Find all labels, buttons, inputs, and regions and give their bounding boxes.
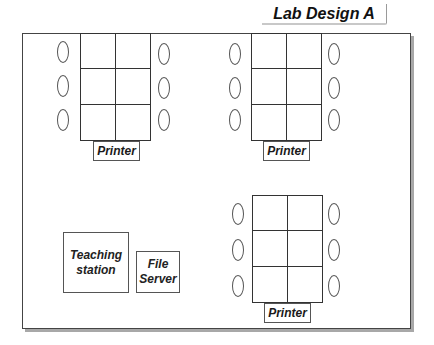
- desk-cluster: [80, 33, 151, 141]
- chair-icon: [232, 239, 244, 261]
- chair-icon: [158, 77, 170, 99]
- desk-cell: [253, 267, 288, 302]
- diagram-title: Lab Design A: [262, 4, 386, 23]
- desk-cell: [252, 34, 287, 69]
- desk-cell: [288, 231, 323, 266]
- chair-icon: [57, 75, 69, 97]
- desk-cell: [116, 105, 151, 140]
- file-server-label-line2: Server: [139, 272, 176, 287]
- desk-cell: [116, 69, 151, 104]
- chair-icon: [328, 43, 340, 65]
- desk-cluster: [252, 195, 323, 303]
- chair-icon: [229, 109, 241, 131]
- desk-cell: [252, 69, 287, 104]
- desk-cell: [253, 231, 288, 266]
- printer: Printer: [264, 303, 311, 323]
- desk-cell: [252, 105, 287, 140]
- chair-icon: [158, 43, 170, 65]
- desk-cell: [288, 196, 323, 231]
- chair-icon: [57, 109, 69, 131]
- desk-cell: [81, 69, 116, 104]
- teaching-station-label-line1: Teaching: [70, 248, 122, 263]
- chair-icon: [328, 109, 340, 131]
- desk-cell: [253, 196, 288, 231]
- desk-cell: [116, 34, 151, 69]
- desk-cell: [287, 34, 322, 69]
- chair-icon: [158, 109, 170, 131]
- desk-cell: [81, 105, 116, 140]
- printer: Printer: [93, 141, 140, 161]
- chair-icon: [229, 43, 241, 65]
- printer: Printer: [263, 141, 310, 161]
- desk-cell: [288, 267, 323, 302]
- desk-cell: [81, 34, 116, 69]
- desk-cell: [287, 105, 322, 140]
- teaching-station-label-line2: station: [70, 263, 122, 278]
- desk-cluster: [251, 33, 322, 141]
- chair-icon: [328, 77, 340, 99]
- desk-cell: [287, 69, 322, 104]
- chair-icon: [57, 41, 69, 63]
- chair-icon: [328, 239, 340, 261]
- file-server: File Server: [136, 251, 180, 293]
- chair-icon: [232, 275, 244, 297]
- teaching-station: Teaching station: [63, 232, 129, 293]
- file-server-label-line1: File: [139, 257, 176, 272]
- chair-icon: [328, 275, 340, 297]
- chair-icon: [232, 203, 244, 225]
- chair-icon: [328, 203, 340, 225]
- chair-icon: [229, 77, 241, 99]
